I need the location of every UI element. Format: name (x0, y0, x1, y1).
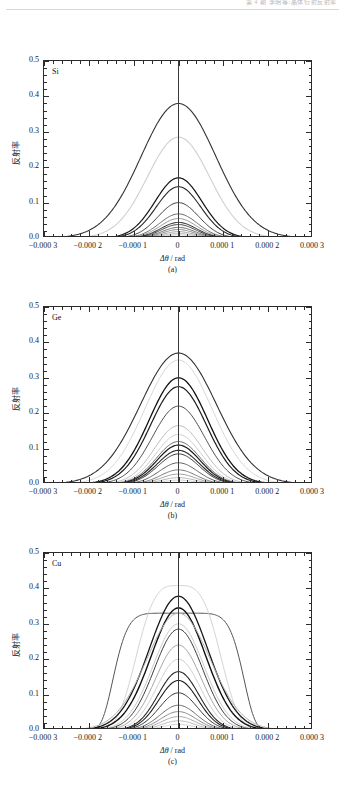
x-tick (53, 307, 54, 310)
x-tick (250, 480, 251, 483)
y-tick-label: 0.0 (0, 478, 39, 487)
y-tick (309, 125, 312, 126)
x-tick (259, 480, 260, 483)
y-tick (309, 357, 312, 358)
y-tick (306, 695, 311, 696)
x-tick (143, 553, 144, 556)
x-tick (107, 553, 108, 556)
y-tick (44, 645, 47, 646)
sample-label: Si (52, 67, 59, 76)
x-tick (53, 553, 54, 556)
y-tick (309, 321, 312, 322)
x-tick (223, 61, 224, 66)
y-tick (309, 688, 312, 689)
y-tick (309, 174, 312, 175)
y-tick (309, 118, 312, 119)
y-tick (44, 560, 47, 561)
x-tick (241, 307, 242, 310)
x-tick (62, 553, 63, 556)
x-tick (71, 307, 72, 310)
y-tick (44, 181, 47, 182)
y-tick (306, 378, 311, 379)
y-tick (309, 645, 312, 646)
y-tick (309, 427, 312, 428)
x-tick (232, 234, 233, 237)
y-tick (44, 349, 47, 350)
y-tick-label: 0.1 (0, 689, 39, 698)
y-tick (309, 75, 312, 76)
y-tick (309, 160, 312, 161)
y-tick (309, 111, 312, 112)
y-tick (306, 61, 311, 62)
x-tick (170, 307, 171, 310)
y-tick (44, 75, 47, 76)
y-tick-label: 0.5 (0, 547, 39, 556)
x-tick (98, 726, 99, 729)
x-tick (80, 480, 81, 483)
x-tick (286, 61, 287, 64)
x-tick (116, 307, 117, 310)
y-tick (306, 96, 311, 97)
x-tick (304, 234, 305, 237)
y-tick (44, 442, 47, 443)
x-tick (196, 234, 197, 237)
x-tick (241, 480, 242, 483)
x-tick (241, 61, 242, 64)
x-tick (179, 723, 180, 728)
y-tick (44, 146, 47, 147)
y-tick (309, 680, 312, 681)
zero-axis-line (178, 307, 179, 482)
y-tick (44, 61, 49, 62)
x-tick (62, 307, 63, 310)
x-tick (116, 726, 117, 729)
x-tick (304, 553, 305, 556)
x-tick-label: 0.000 1 (199, 487, 245, 496)
x-tick (295, 726, 296, 729)
x-tick (89, 231, 90, 236)
y-tick (44, 666, 47, 667)
x-tick (152, 61, 153, 64)
x-tick (295, 234, 296, 237)
x-tick (89, 61, 90, 66)
x-axis-label-symbol: Δθ (160, 746, 169, 755)
y-tick (309, 224, 312, 225)
x-tick (107, 234, 108, 237)
x-tick-label: −0.000 1 (110, 733, 156, 742)
x-tick (295, 553, 296, 556)
x-tick (223, 307, 224, 312)
zero-axis-line (178, 553, 179, 728)
x-tick (286, 726, 287, 729)
x-tick (116, 234, 117, 237)
y-tick (309, 603, 312, 604)
x-tick (71, 480, 72, 483)
x-tick (134, 61, 135, 66)
y-tick (306, 413, 311, 414)
y-tick (306, 659, 311, 660)
y-tick (44, 456, 47, 457)
x-tick (170, 726, 171, 729)
x-tick (179, 553, 180, 558)
x-tick (250, 307, 251, 310)
x-tick (143, 726, 144, 729)
x-tick (232, 61, 233, 64)
x-tick-label: −0.000 2 (65, 733, 111, 742)
x-tick (214, 61, 215, 64)
chart-panel-cu: Cu0.00.10.20.30.40.5反射率−0.000 3−0.000 2−… (0, 508, 345, 754)
x-tick (295, 480, 296, 483)
y-tick (306, 203, 311, 204)
y-tick (309, 153, 312, 154)
y-tick (309, 328, 312, 329)
x-tick (71, 553, 72, 556)
y-tick (309, 196, 312, 197)
y-tick (309, 349, 312, 350)
plot-area-ge: Ge (43, 306, 312, 483)
x-tick (187, 480, 188, 483)
y-tick-label: 0.5 (0, 301, 39, 310)
x-tick (214, 480, 215, 483)
x-tick (125, 307, 126, 310)
x-tick (134, 307, 135, 312)
y-tick (306, 342, 311, 343)
x-axis-label-unit: / rad (169, 746, 185, 755)
y-tick (309, 666, 312, 667)
x-tick (223, 553, 224, 558)
